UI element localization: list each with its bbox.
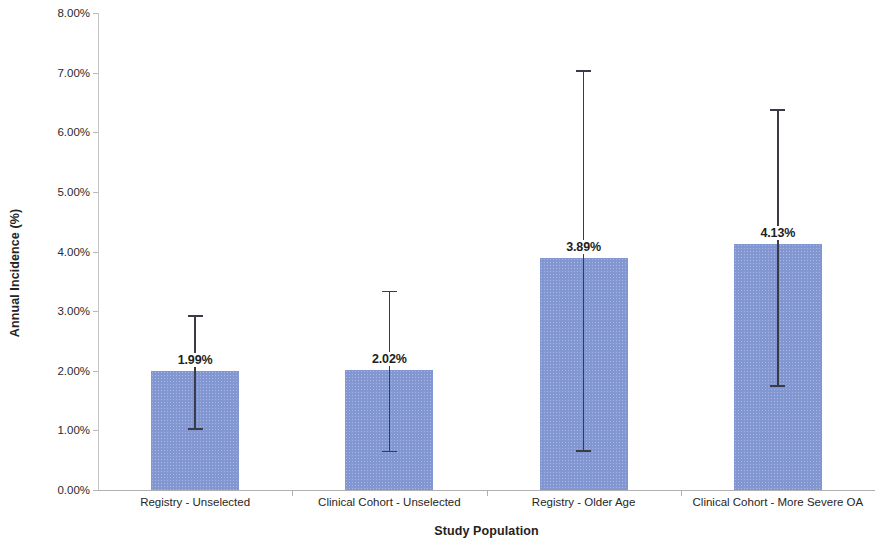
category-separator: [487, 490, 488, 496]
y-axis-tickmark: [93, 490, 98, 491]
x-axis-category-label: Clinical Cohort - More Severe OA: [693, 496, 864, 508]
x-axis-category-label: Clinical Cohort - Unselected: [318, 496, 461, 508]
error-bar-line: [777, 109, 779, 385]
y-axis-tickmark: [93, 192, 98, 193]
y-axis-tickmark: [93, 430, 98, 431]
data-label-text: 4.13%: [758, 226, 797, 240]
error-bar-cap-upper: [382, 291, 397, 293]
error-bar-cap-upper: [576, 70, 591, 72]
y-axis-tick-label: 5.00%: [34, 186, 90, 198]
x-axis-category-label: Registry - Unselected: [140, 496, 250, 508]
chart-figure: Annual Incidence (%) 0.00%1.00%2.00%3.00…: [0, 0, 885, 546]
y-axis-tick-label: 1.00%: [34, 424, 90, 436]
category-separator: [292, 490, 293, 496]
data-label: 1.99%: [176, 353, 215, 367]
y-axis-tick-label: 6.00%: [34, 126, 90, 138]
data-label-text: 1.99%: [176, 353, 215, 367]
error-bar-line: [194, 315, 196, 428]
data-label: 4.13%: [758, 226, 797, 240]
y-axis-tick-label: 4.00%: [34, 246, 90, 258]
y-axis-tickmark: [93, 13, 98, 14]
data-label-text: 2.02%: [370, 352, 409, 366]
y-axis-tickmark: [93, 132, 98, 133]
data-label-text: 3.89%: [564, 240, 603, 254]
error-bar-cap-lower: [382, 451, 397, 453]
error-bar-cap-lower: [770, 385, 785, 387]
y-axis-tickmark: [93, 73, 98, 74]
y-axis-tick-label: 8.00%: [34, 7, 90, 19]
y-axis-tickmark: [93, 371, 98, 372]
y-axis-line: [98, 13, 99, 490]
x-axis-category-label: Registry - Older Age: [532, 496, 636, 508]
y-axis-tick-label: 2.00%: [34, 365, 90, 377]
error-bar-line: [389, 291, 391, 451]
category-separator: [681, 490, 682, 496]
y-axis-tick-label: 3.00%: [34, 305, 90, 317]
y-axis-tick-label: 0.00%: [34, 484, 90, 496]
error-bar-cap-lower: [576, 450, 591, 452]
y-axis-tick-labels: 0.00%1.00%2.00%3.00%4.00%5.00%6.00%7.00%…: [34, 0, 90, 546]
y-axis-tickmark: [93, 252, 98, 253]
error-bar-line: [583, 70, 585, 450]
data-label: 3.89%: [564, 240, 603, 254]
error-bar-cap-lower: [188, 428, 203, 430]
y-axis-title: Annual Incidence (%): [0, 0, 30, 546]
error-bar-cap-upper: [770, 109, 785, 111]
data-label: 2.02%: [370, 352, 409, 366]
error-bar-cap-upper: [188, 315, 203, 317]
y-axis-tick-label: 7.00%: [34, 67, 90, 79]
x-axis-title: Study Population: [98, 524, 875, 538]
plot-area: 1.99%2.02%3.89%4.13%: [98, 13, 875, 490]
y-axis-tickmark: [93, 311, 98, 312]
